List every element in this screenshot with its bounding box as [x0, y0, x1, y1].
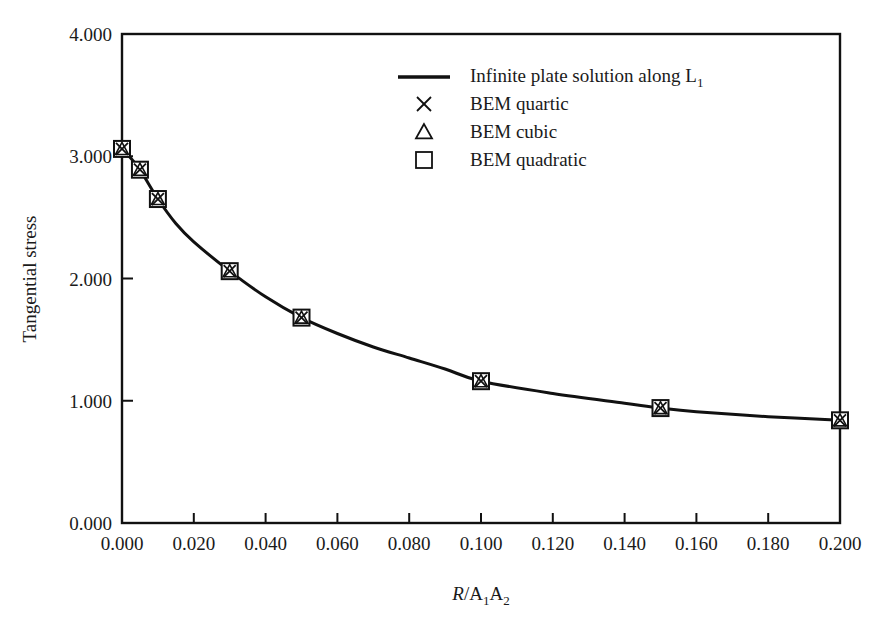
x-tick-label: 0.060: [316, 533, 359, 554]
legend-label: BEM cubic: [470, 121, 557, 142]
figure-container: 0.0000.0200.0400.0600.0800.1000.1200.140…: [0, 0, 884, 631]
data-point-marker-group: [294, 310, 310, 326]
y-tick-label: 0.000: [69, 513, 112, 534]
data-point-marker-group: [132, 162, 148, 178]
legend-label: BEM quadratic: [470, 149, 587, 170]
data-point-marker-group: [222, 263, 238, 279]
x-axis-title-slash-a: /A: [464, 583, 483, 604]
data-point-marker-group: [653, 400, 669, 416]
x-tick-label: 0.040: [244, 533, 287, 554]
tangential-stress-chart: 0.0000.0200.0400.0600.0800.1000.1200.140…: [0, 0, 884, 631]
x-tick-label: 0.020: [172, 533, 215, 554]
x-axis-tick-labels: 0.0000.0200.0400.0600.0800.1000.1200.140…: [101, 533, 862, 554]
y-tick-label: 3.000: [69, 146, 112, 167]
y-tick-label: 2.000: [69, 269, 112, 290]
x-tick-label: 0.120: [531, 533, 574, 554]
x-axis-title-sub2: 2: [503, 593, 510, 608]
data-point-marker-group: [832, 412, 848, 428]
x-tick-label: 0.000: [101, 533, 144, 554]
x-tick-label: 0.180: [747, 533, 790, 554]
x-tick-label: 0.160: [675, 533, 718, 554]
y-axis-title: Tangential stress: [19, 216, 40, 343]
data-point-marker-group: [150, 191, 166, 207]
data-point-marker-group: [114, 141, 130, 157]
x-tick-label: 0.080: [388, 533, 431, 554]
legend-label: BEM quartic: [470, 93, 569, 114]
y-tick-label: 1.000: [69, 391, 112, 412]
x-axis-title-a2: A: [489, 583, 503, 604]
data-point-marker-group: [473, 373, 489, 389]
x-tick-label: 0.200: [819, 533, 862, 554]
x-tick-label: 0.140: [603, 533, 646, 554]
x-axis-title-italic-r: R: [451, 583, 464, 604]
y-tick-label: 4.000: [69, 24, 112, 45]
x-tick-label: 0.100: [460, 533, 503, 554]
